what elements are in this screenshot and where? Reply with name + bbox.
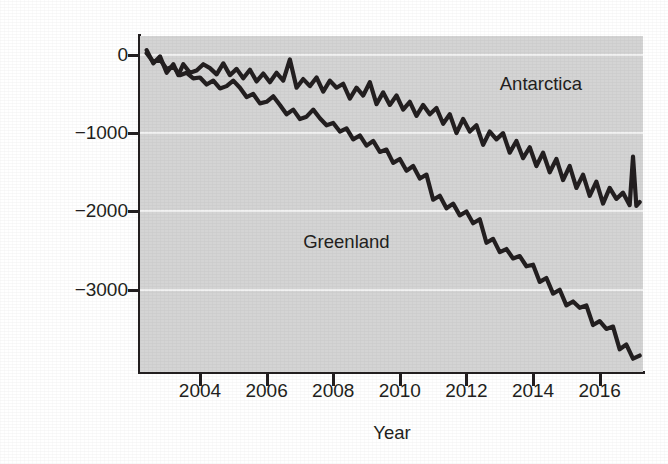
y-axis-tick-labels: 0−1000−2000−3000: [28, 0, 128, 464]
y-tick-label: −2000: [33, 200, 128, 222]
y-tick-mark: [128, 132, 140, 135]
y-tick-label: −3000: [33, 279, 128, 301]
y-tick-mark: [128, 54, 140, 57]
series-label-greenland: Greenland: [303, 231, 389, 253]
y-tick-mark: [128, 289, 140, 292]
series-label-antarctica: Antarctica: [500, 73, 582, 95]
y-tick-mark: [128, 210, 140, 213]
x-axis-title: Year: [140, 422, 644, 444]
y-tick-label: −1000: [33, 122, 128, 144]
y-tick-label: 0: [33, 44, 128, 66]
x-tick-label: 2016: [560, 380, 640, 402]
ice-mass-loss-chart: Ice lost to melting (billion metric tons…: [0, 0, 668, 464]
plot-area: AntarcticaGreenland: [140, 36, 643, 372]
